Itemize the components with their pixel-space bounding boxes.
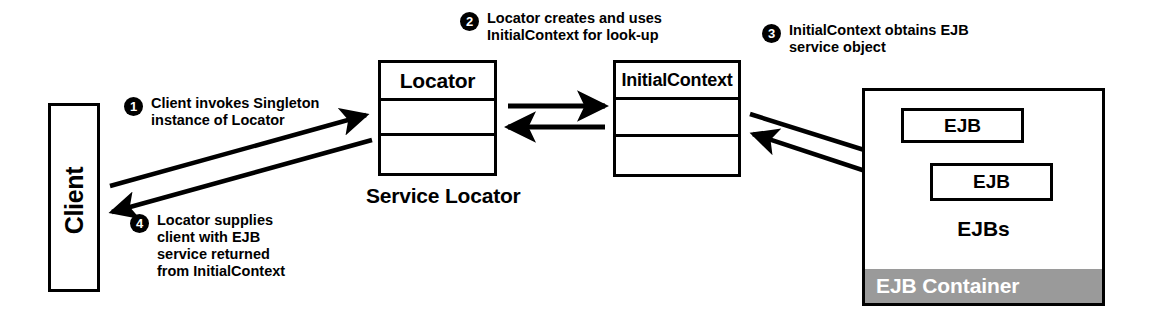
locator-operations-compartment [381, 136, 494, 173]
step-text: Client invokes Singleton instance of Loc… [151, 95, 319, 129]
service-locator-diagram: Client Locator Service Locator InitialCo… [0, 0, 1157, 329]
ejb-container-box: EJB EJB EJBs EJB Container [862, 88, 1105, 306]
step-number-badge: 3 [762, 24, 781, 43]
ejbs-group-label: EJBs [865, 217, 1102, 241]
step-text: InitialContext obtains EJB service objec… [789, 22, 969, 56]
step-number-badge: 4 [130, 214, 149, 233]
ejb-container-band: EJB Container [865, 269, 1102, 303]
ejb-box: EJB [901, 108, 1024, 143]
step-text: Locator creates and uses InitialContext … [487, 10, 662, 44]
initialcontext-title: InitialContext [616, 63, 738, 100]
step-annotation-4: 4 Locator supplies client with EJB servi… [130, 212, 285, 280]
service-locator-caption: Service Locator [366, 184, 521, 208]
step-annotation-1: 1 Client invokes Singleton instance of L… [124, 95, 319, 129]
step-annotation-2: 2 Locator creates and uses InitialContex… [460, 10, 662, 44]
initialcontext-attributes-compartment [616, 100, 738, 137]
step-text: Locator supplies client with EJB service… [157, 212, 285, 280]
locator-class-box: Locator [378, 60, 497, 176]
step-number-badge: 2 [460, 12, 479, 31]
initialcontext-class-box: InitialContext [613, 60, 741, 177]
step-number-badge: 1 [124, 97, 143, 116]
initialcontext-operations-compartment [616, 137, 738, 174]
locator-attributes-compartment [381, 101, 494, 136]
client-box: Client [48, 103, 100, 292]
step-annotation-3: 3 InitialContext obtains EJB service obj… [762, 22, 969, 56]
locator-title: Locator [381, 63, 494, 101]
ejb-container-band-label: EJB Container [865, 274, 1019, 298]
client-label: Client [51, 106, 97, 295]
ejb-box: EJB [930, 163, 1053, 201]
arrow-locator-to-client [112, 140, 372, 212]
